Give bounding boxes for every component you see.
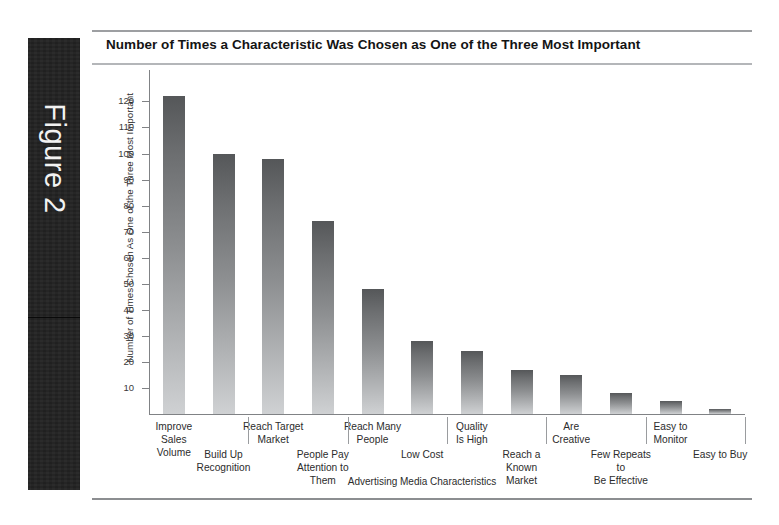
y-axis-tick: [142, 336, 150, 337]
y-axis-tick-label: 60: [106, 252, 138, 263]
y-axis-tick-label-text: 20: [106, 356, 134, 367]
x-axis-separator: [447, 417, 448, 444]
y-axis-line: [149, 70, 150, 415]
x-axis-tick-label: Reach Many People: [342, 420, 404, 446]
x-axis-tick-label: Easy to Buy: [689, 448, 751, 461]
y-axis-tick-label: 20: [106, 356, 138, 367]
y-axis-tick: [142, 284, 150, 285]
figure-number-label: Figure 2: [38, 103, 71, 213]
y-axis-tick-label-text: 70: [106, 226, 134, 237]
x-axis-tick-label: Reach Target Market: [242, 420, 304, 446]
y-axis-tick-label: 40: [106, 304, 138, 315]
y-axis-tick: [142, 232, 150, 233]
y-axis-tick-label: 80: [106, 200, 138, 211]
y-axis-tick-label-text: 120: [106, 95, 134, 106]
figure-tab-sidebar: Figure 2: [28, 38, 80, 490]
bar: [213, 154, 235, 415]
chart-panel: Number of Times a Characteristic Was Cho…: [92, 30, 752, 500]
x-axis-separator: [646, 417, 647, 444]
bar: [163, 96, 185, 414]
y-axis-tick-label-text: 50: [106, 278, 134, 289]
y-axis-tick-label-text: 40: [106, 304, 134, 315]
y-axis-tick-label: 90: [106, 174, 138, 185]
bar: [610, 393, 632, 414]
x-axis-tick-label: Are Creative: [540, 420, 602, 446]
y-axis-tick-label-text: 60: [106, 252, 134, 263]
bar: [411, 341, 433, 414]
bar: [461, 351, 483, 414]
y-axis-tick: [142, 310, 150, 311]
y-axis-tick: [142, 362, 150, 363]
y-axis-tick: [142, 388, 150, 389]
x-axis-separator: [546, 417, 547, 444]
y-axis-tick-label-text: 30: [106, 330, 134, 341]
x-axis-tick-label: Quality Is High: [441, 420, 503, 446]
bar: [511, 370, 533, 414]
y-axis-tick-label: 10: [106, 382, 138, 393]
y-axis-tick: [142, 154, 150, 155]
y-axis-tick-label-text: 100: [106, 148, 134, 159]
panel-rule-bottom: [92, 498, 752, 500]
y-axis-tick-label: 30: [106, 330, 138, 341]
bar: [262, 159, 284, 414]
y-axis-tick-label-text: 10: [106, 382, 134, 393]
bar: [709, 409, 731, 414]
x-axis-separator: [745, 417, 746, 444]
x-axis-separator: [348, 417, 349, 444]
y-axis-tick: [142, 258, 150, 259]
figure-page: Figure 2 Number of Times a Characteristi…: [0, 0, 779, 525]
y-axis-tick: [142, 127, 150, 128]
y-axis-tick-label-text: 80: [106, 200, 134, 211]
x-axis-tick-label: Low Cost: [391, 448, 453, 461]
y-axis-tick-label: 100: [106, 148, 138, 159]
figure-tab-hairline: [28, 317, 80, 318]
x-axis-separator: [248, 417, 249, 444]
x-axis-tick-label: Build Up Recognition: [193, 448, 255, 474]
y-axis-tick-label-text: 110: [106, 121, 134, 132]
y-axis-tick-label: 50: [106, 278, 138, 289]
y-axis-tick-label: 120: [106, 95, 138, 106]
bar: [560, 375, 582, 414]
bar-chart-plot: Number of Times Chosen As One of the Thr…: [92, 30, 752, 500]
y-axis-tick: [142, 180, 150, 181]
y-axis-tick-label: 70: [106, 226, 138, 237]
x-axis-tick-label: Easy to Monitor: [640, 420, 702, 446]
x-axis-line: [149, 414, 745, 415]
y-axis-tick-label: 110: [106, 121, 138, 132]
bar: [312, 221, 334, 414]
x-axis-title: Advertising Media Characteristics: [92, 476, 752, 487]
y-axis-tick-label-text: 90: [106, 174, 134, 185]
y-axis-tick: [142, 206, 150, 207]
bar: [660, 401, 682, 414]
y-axis-tick: [142, 101, 150, 102]
bar: [362, 289, 384, 414]
